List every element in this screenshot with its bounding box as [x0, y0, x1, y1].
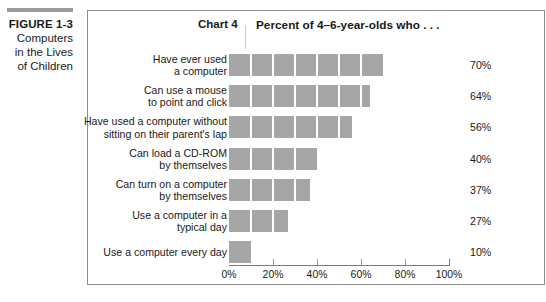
bar-row: Can load a CD-ROMby themselves40% — [88, 148, 544, 170]
bar-segment-separator — [360, 54, 362, 76]
bar-segment-separator — [272, 116, 274, 138]
bar-category-label: Use a computer in atypical day — [132, 209, 227, 234]
x-axis-line — [229, 265, 450, 266]
bar-segment-separator — [338, 85, 340, 107]
bar-segment-separator — [316, 116, 318, 138]
bar-value-label: 37% — [470, 184, 491, 196]
bar-segment-separator — [316, 54, 318, 76]
bar-track — [229, 210, 449, 232]
bar-value-label: 40% — [470, 153, 491, 165]
bar-track — [229, 116, 449, 138]
bar-segment-separator — [250, 85, 252, 107]
bar-chart-plot-area: Have ever useda computer70%Can use a mou… — [88, 11, 544, 284]
bar-segment-separator — [338, 54, 340, 76]
figure-label: FIGURE 1-3 — [0, 17, 73, 31]
bar-value-label: 56% — [470, 121, 491, 133]
bar-category-label: Can load a CD-ROMby themselves — [129, 146, 227, 171]
x-axis-tick-label: 20% — [263, 269, 284, 280]
figure-caption-block: FIGURE 1-3 Computers in the Lives of Chi… — [0, 8, 80, 74]
bar-category-label: Have used a computer withoutsitting on t… — [84, 115, 227, 140]
bar-category-label: Use a computer every day — [103, 246, 227, 258]
bar-value-label: 10% — [470, 246, 491, 258]
bar-track — [229, 179, 449, 201]
bar-segment-separators — [229, 210, 288, 232]
bar-category-label: Can turn on a computerby themselves — [116, 178, 227, 203]
bar-segment-separators — [229, 85, 370, 107]
bar-segment-separators — [229, 116, 352, 138]
bar-category-label: Have ever useda computer — [153, 53, 227, 78]
caption-line: of Children — [0, 59, 73, 73]
x-axis-tick-label: 80% — [395, 269, 416, 280]
x-axis-tick-label: 40% — [307, 269, 328, 280]
bar-segment-separator — [250, 54, 252, 76]
bar-value-label: 64% — [470, 90, 491, 102]
bar-segment-separators — [229, 54, 383, 76]
bar-track — [229, 85, 449, 107]
bar-segment-separator — [272, 85, 274, 107]
bar-segment-separators — [229, 241, 251, 263]
x-axis-tick — [405, 259, 406, 265]
figure-caption-text: Computers in the Lives of Children — [0, 31, 73, 74]
bar-segment-separator — [272, 54, 274, 76]
caption-rule — [7, 8, 73, 12]
bar-segment-separator — [294, 148, 296, 170]
x-axis-tick-label: 100% — [436, 269, 463, 280]
caption-line: in the Lives — [0, 45, 73, 59]
bar-segment-separators — [229, 179, 310, 201]
x-axis-tick — [273, 259, 274, 265]
x-axis-end-cap — [449, 259, 450, 266]
x-axis-tick-label: 0% — [221, 269, 236, 280]
caption-line: Computers — [0, 31, 73, 45]
bar-segment-separator — [294, 116, 296, 138]
bar-segment-separator — [250, 179, 252, 201]
bar-row: Can turn on a computerby themselves37% — [88, 179, 544, 201]
bar-value-label: 27% — [470, 215, 491, 227]
bar-segment-separator — [360, 85, 362, 107]
bar-row: Can use a mouseto point and click64% — [88, 85, 544, 107]
bar-track — [229, 241, 449, 263]
bar-segment-separator — [272, 210, 274, 232]
bar-segment-separator — [272, 179, 274, 201]
x-axis-tick — [361, 259, 362, 265]
bar-row: Have used a computer withoutsitting on t… — [88, 116, 544, 138]
bar-segment-separators — [229, 148, 317, 170]
x-axis-tick — [317, 259, 318, 265]
bar-row: Use a computer in atypical day27% — [88, 210, 544, 232]
bar-segment-separator — [338, 116, 340, 138]
bar-segment-separator — [250, 148, 252, 170]
bar-segment-separator — [250, 210, 252, 232]
bar-segment-separator — [316, 85, 318, 107]
bar-segment-separator — [272, 148, 274, 170]
bar-segment-separator — [294, 179, 296, 201]
bar-row: Use a computer every day10% — [88, 241, 544, 263]
bar-category-label: Can use a mouseto point and click — [144, 84, 227, 109]
bar-value-label: 70% — [470, 59, 491, 71]
bar-row: Have ever useda computer70% — [88, 54, 544, 76]
bar-segment-separator — [294, 54, 296, 76]
bar-track — [229, 54, 449, 76]
bar-track — [229, 148, 449, 170]
figure-panel: Chart 4 Percent of 4–6-year-olds who . .… — [87, 10, 545, 285]
x-axis-tick-label: 60% — [351, 269, 372, 280]
bar-segment-separator — [250, 116, 252, 138]
bar-segment-separator — [294, 85, 296, 107]
